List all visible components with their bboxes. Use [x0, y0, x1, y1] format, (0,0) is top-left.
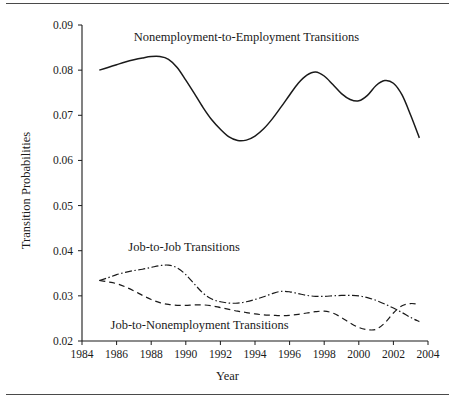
x-tick-label: 1998 [313, 348, 336, 360]
x-axis-tick-labels: 1984198619881990199219941996199820002002… [71, 348, 440, 360]
x-axis-tick-marks [82, 341, 428, 345]
y-tick-label: 0.05 [53, 200, 73, 212]
series-line-nonemployment-to-employment [99, 56, 419, 141]
x-tick-label: 2000 [347, 348, 370, 360]
x-axis-title: Year [0, 369, 455, 384]
x-tick-label: 2004 [417, 348, 440, 360]
series-line-job-to-job [99, 265, 419, 322]
x-tick-label: 2002 [382, 348, 405, 360]
x-tick-label: 1994 [244, 348, 267, 360]
figure-container: 0.020.030.040.050.060.070.080.09 1984198… [0, 0, 455, 407]
y-axis-tick-marks [78, 25, 82, 341]
series-annotation: Job-to-Nonemployment Transitions [111, 318, 289, 332]
y-tick-label: 0.04 [53, 245, 73, 257]
series-annotation: Job-to-Job Transitions [128, 240, 240, 254]
x-tick-label: 1992 [209, 348, 232, 360]
y-tick-label: 0.09 [53, 19, 73, 31]
line-chart: 0.020.030.040.050.060.070.080.09 1984198… [0, 0, 455, 407]
y-tick-label: 0.03 [53, 290, 73, 302]
x-tick-label: 1990 [174, 348, 197, 360]
x-tick-label: 1996 [278, 348, 301, 360]
x-tick-label: 1984 [71, 348, 94, 360]
y-axis-title: Transition Probabilities [19, 91, 34, 291]
y-axis-tick-labels: 0.020.030.040.050.060.070.080.09 [53, 19, 73, 347]
x-tick-label: 1986 [105, 348, 128, 360]
y-tick-label: 0.07 [53, 109, 73, 121]
y-tick-label: 0.08 [53, 64, 73, 76]
y-tick-label: 0.06 [53, 154, 73, 166]
series-annotation: Nonemployment-to-Employment Transitions [134, 30, 359, 44]
y-tick-label: 0.02 [53, 335, 73, 347]
x-tick-label: 1988 [140, 348, 163, 360]
